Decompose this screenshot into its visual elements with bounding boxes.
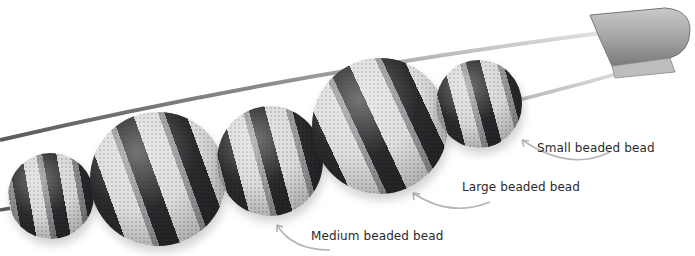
label-small-beaded-bead: Small beaded bead xyxy=(537,141,655,155)
photo-scene: Small beaded bead Large beaded bead Medi… xyxy=(0,0,695,256)
bead-medium xyxy=(217,106,323,216)
label-medium-beaded-bead: Medium beaded bead xyxy=(311,229,443,243)
bead-small-left xyxy=(8,153,94,239)
bead-large xyxy=(312,58,448,194)
label-large-beaded-bead: Large beaded bead xyxy=(462,180,580,194)
bead-small xyxy=(436,60,522,148)
bead-large-left xyxy=(90,112,226,246)
